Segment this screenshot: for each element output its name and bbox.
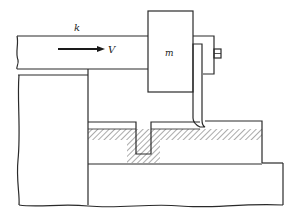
beam	[17, 36, 148, 69]
tool-bracket	[193, 36, 214, 74]
workpiece-hatch	[88, 129, 262, 163]
cutting-tool	[193, 44, 205, 127]
label-v: V	[108, 44, 117, 55]
support-column	[17, 69, 88, 205]
machine-base	[19, 163, 283, 207]
velocity-arrow	[58, 46, 105, 52]
workpiece	[88, 121, 262, 164]
label-k: k	[74, 22, 80, 33]
label-m: m	[165, 48, 174, 58]
diagram-canvas: k V m	[0, 0, 297, 222]
